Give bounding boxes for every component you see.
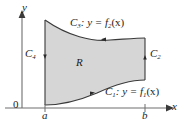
origin-label: 0 <box>13 99 19 110</box>
curve-label-c1-equation: C1: y = f1(x) <box>105 86 159 98</box>
region-label-r: R <box>76 57 83 68</box>
curve-label-c1-equation-tail: (x) <box>146 85 159 97</box>
curve-label-c1-equation-head: : y = f <box>116 85 143 97</box>
curve-label-c3-equation: C3: y = f2(x) <box>70 17 124 29</box>
x-axis-label: x <box>172 101 177 112</box>
x-tick-label-b: b <box>142 110 148 121</box>
curve-label-c2: C2 <box>150 48 161 60</box>
curve-label-c3-equation-head: : y = f <box>81 16 108 28</box>
curve-label-c4-subscript: 4 <box>32 53 35 60</box>
y-axis-label: y <box>22 2 27 13</box>
curve-label-c4: C4 <box>25 48 36 60</box>
figure-canvas: y x 0 a b R C4 C2 C3: y = f2(x) C1: y = … <box>0 0 184 131</box>
curve-label-c3-equation-tail: (x) <box>111 16 124 28</box>
curve-label-c2-subscript: 2 <box>157 53 160 60</box>
x-tick-label-a: a <box>42 110 48 121</box>
